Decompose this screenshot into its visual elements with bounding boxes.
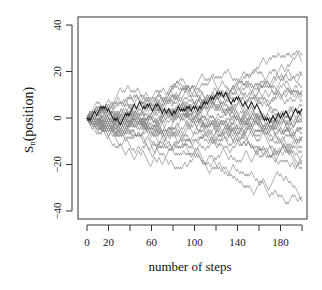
walk-line xyxy=(87,113,302,155)
x-axis: 02060100140180 xyxy=(84,225,302,248)
walk-trajectories xyxy=(87,51,302,204)
walk-line xyxy=(87,95,302,137)
walk-line xyxy=(87,106,302,143)
walk-line xyxy=(87,118,302,204)
x-axis-title: number of steps xyxy=(148,259,231,274)
x-tick-label: 60 xyxy=(146,236,158,248)
walk-line xyxy=(87,118,302,169)
walk-line xyxy=(87,83,302,120)
walk-line xyxy=(87,106,302,134)
walk-line xyxy=(87,69,302,134)
x-tick-label: 180 xyxy=(272,236,289,248)
y-tick-label: 40 xyxy=(51,19,63,31)
random-walk-chart: 40200−20−40 02060100140180 number of ste… xyxy=(0,0,322,290)
y-axis: 40200−20−40 xyxy=(51,19,72,220)
y-tick-label: 20 xyxy=(51,66,63,78)
y-tick-label: −20 xyxy=(51,155,63,173)
y-tick-label: 0 xyxy=(51,115,63,121)
x-tick-label: 100 xyxy=(186,236,203,248)
y-axis-title: Sn(position) xyxy=(21,87,37,154)
svg-text:Sn(position): Sn(position) xyxy=(21,87,37,154)
x-tick-label: 0 xyxy=(84,236,90,248)
x-tick-label: 140 xyxy=(229,236,246,248)
walk-line xyxy=(87,109,302,160)
walk-line xyxy=(87,116,302,202)
walk-line xyxy=(87,102,302,139)
y-tick-label: −40 xyxy=(51,202,63,220)
x-tick-label: 20 xyxy=(103,236,115,248)
walk-line xyxy=(87,69,302,134)
y-axis-title-rest: (position) xyxy=(21,87,37,142)
y-axis-title-main: S xyxy=(21,146,36,153)
